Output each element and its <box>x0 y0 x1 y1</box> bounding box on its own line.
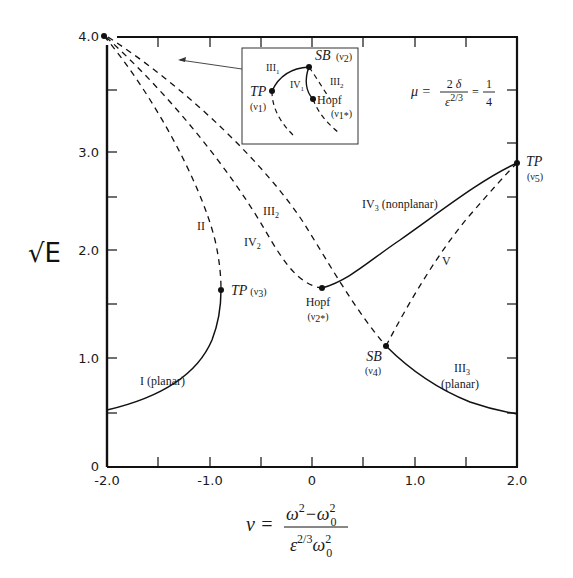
sb-v4-point <box>383 343 389 349</box>
tp-v5-point <box>514 160 520 166</box>
curve-II <box>104 36 221 290</box>
x-tick-0: -2.0 <box>94 473 119 488</box>
svg-text:ν =: ν = <box>246 513 273 535</box>
inset-label-hopf: Hopf <box>317 93 342 107</box>
label-curve-III3: III3 <box>454 361 470 377</box>
label-hopf-v2-index: (ν2*) <box>307 311 328 324</box>
y-tick-2: 2.0 <box>78 243 99 258</box>
label-curve-III3-planar: (planar) <box>441 377 479 391</box>
y-tick-1: 1.0 <box>78 351 99 366</box>
y-tick-3: 3.0 <box>78 145 99 160</box>
x-tick-2: 0 <box>308 473 316 488</box>
mu-formula: μ = 2 δ ε2/3 = 1 4 <box>410 77 495 109</box>
y-tick-4: 4.0 <box>78 29 99 44</box>
label-sb-v4-index: (ν4) <box>365 365 381 378</box>
label-tp-v3: TP(ν3) <box>231 283 267 299</box>
inset-label-sb: SB <box>315 48 331 63</box>
inset-tp-v1-point <box>269 88 275 94</box>
svg-text:1: 1 <box>486 77 492 91</box>
label-curve-IV2: IV2 <box>244 235 261 251</box>
label-curve-V: V <box>442 254 451 268</box>
inset-arrow-line <box>180 60 242 69</box>
label-curve-III2: III2 <box>263 204 279 220</box>
curve-I <box>107 290 221 410</box>
inset-sb-v2-point <box>306 64 312 70</box>
svg-text:ε2/3: ε2/3 <box>445 92 463 109</box>
hopf-v2-point <box>319 285 325 291</box>
curve-V <box>386 163 517 346</box>
y-tick-0: 0 <box>91 459 99 474</box>
label-sb-v4: SB <box>366 349 382 364</box>
label-curve-II: II <box>197 219 205 233</box>
x-axis-label: ν = ω2−ω20 ε2/3ω20 <box>246 501 348 560</box>
curve-IV3 <box>322 163 517 288</box>
x-tick-3: 1.0 <box>405 473 426 488</box>
svg-text:ω2−ω20: ω2−ω20 <box>286 501 337 529</box>
arrow-icon <box>178 57 186 62</box>
inset-hopf-point <box>310 96 316 102</box>
bifurcation-chart: 0 1.0 2.0 3.0 4.0 -2.0 -1.0 0 1.0 2.0 √E… <box>0 0 573 578</box>
tp-v3-point <box>218 287 224 293</box>
svg-text:2 δ: 2 δ <box>447 77 462 91</box>
svg-text:ε2/3ω20: ε2/3ω20 <box>290 532 332 560</box>
svg-text:=: = <box>472 85 479 99</box>
svg-text:4: 4 <box>486 95 492 109</box>
x-tick-1: -1.0 <box>197 473 222 488</box>
x-tick-4: 2.0 <box>507 473 528 488</box>
label-curve-I: I (planar) <box>140 374 185 388</box>
inset-label-tp: TP <box>250 84 267 99</box>
svg-text:μ =: μ = <box>410 84 431 99</box>
y-axis-label: √E <box>28 238 61 268</box>
label-tp-v5: TP <box>526 154 543 169</box>
label-hopf-v2: Hopf <box>306 295 331 309</box>
label-curve-IV3: IV3 (nonplanar) <box>362 197 438 213</box>
label-tp-v5-index: (ν5) <box>527 171 543 184</box>
